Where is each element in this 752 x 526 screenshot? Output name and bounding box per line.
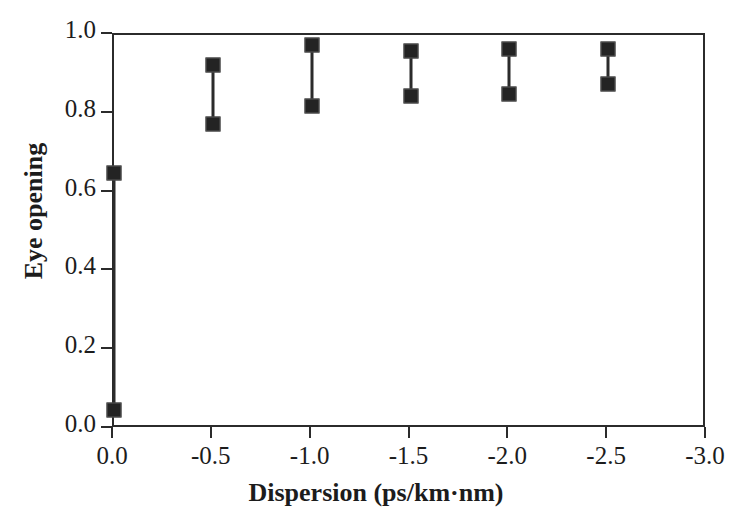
- x-axis-title: Dispersion (ps/km·nm): [0, 478, 752, 508]
- x-tick-label: -1.0: [290, 442, 330, 470]
- x-tick-mark: [506, 427, 508, 438]
- data-point-marker-upper: [403, 43, 418, 58]
- x-tick-label: -1.5: [389, 442, 429, 470]
- x-tick-mark: [309, 427, 311, 438]
- y-tick-label: 0.0: [0, 410, 96, 438]
- data-point-marker-lower: [107, 403, 122, 418]
- data-point-marker-lower: [601, 77, 616, 92]
- chart-figure: 0.00.20.40.60.81.0 0.0-0.5-1.0-1.5-2.0-2…: [0, 0, 752, 526]
- data-point-marker-lower: [502, 87, 517, 102]
- data-point-marker-lower: [205, 116, 220, 131]
- y-tick-mark: [101, 190, 112, 192]
- y-tick-mark: [101, 268, 112, 270]
- data-connector-line: [113, 173, 116, 410]
- x-tick-label: -2.0: [488, 442, 528, 470]
- x-tick-label: -2.5: [586, 442, 626, 470]
- data-point-marker-upper: [107, 165, 122, 180]
- data-point-marker-lower: [304, 98, 319, 113]
- y-tick-label: 1.0: [0, 16, 96, 44]
- y-tick-mark: [101, 347, 112, 349]
- x-tick-label: 0.0: [96, 442, 127, 470]
- data-series-layer: [114, 35, 703, 425]
- plot-area: [112, 33, 705, 427]
- y-tick-label-wrap: 1.0: [0, 16, 96, 44]
- x-tick-mark: [704, 427, 706, 438]
- x-tick-mark: [111, 427, 113, 438]
- y-axis-title: Eye opening: [19, 81, 49, 341]
- data-connector-line: [310, 45, 313, 106]
- data-connector-line: [211, 65, 214, 124]
- data-point-marker-upper: [502, 41, 517, 56]
- x-tick-mark: [605, 427, 607, 438]
- x-tick-mark: [210, 427, 212, 438]
- x-tick-label: -0.5: [191, 442, 231, 470]
- data-point-marker-upper: [205, 57, 220, 72]
- x-tick-mark: [408, 427, 410, 438]
- y-tick-mark: [101, 32, 112, 34]
- x-tick-label: -3.0: [685, 442, 725, 470]
- y-tick-mark: [101, 111, 112, 113]
- data-point-marker-upper: [304, 37, 319, 52]
- data-point-marker-lower: [403, 89, 418, 104]
- data-point-marker-upper: [601, 41, 616, 56]
- y-tick-label-wrap: 0.0: [0, 410, 96, 438]
